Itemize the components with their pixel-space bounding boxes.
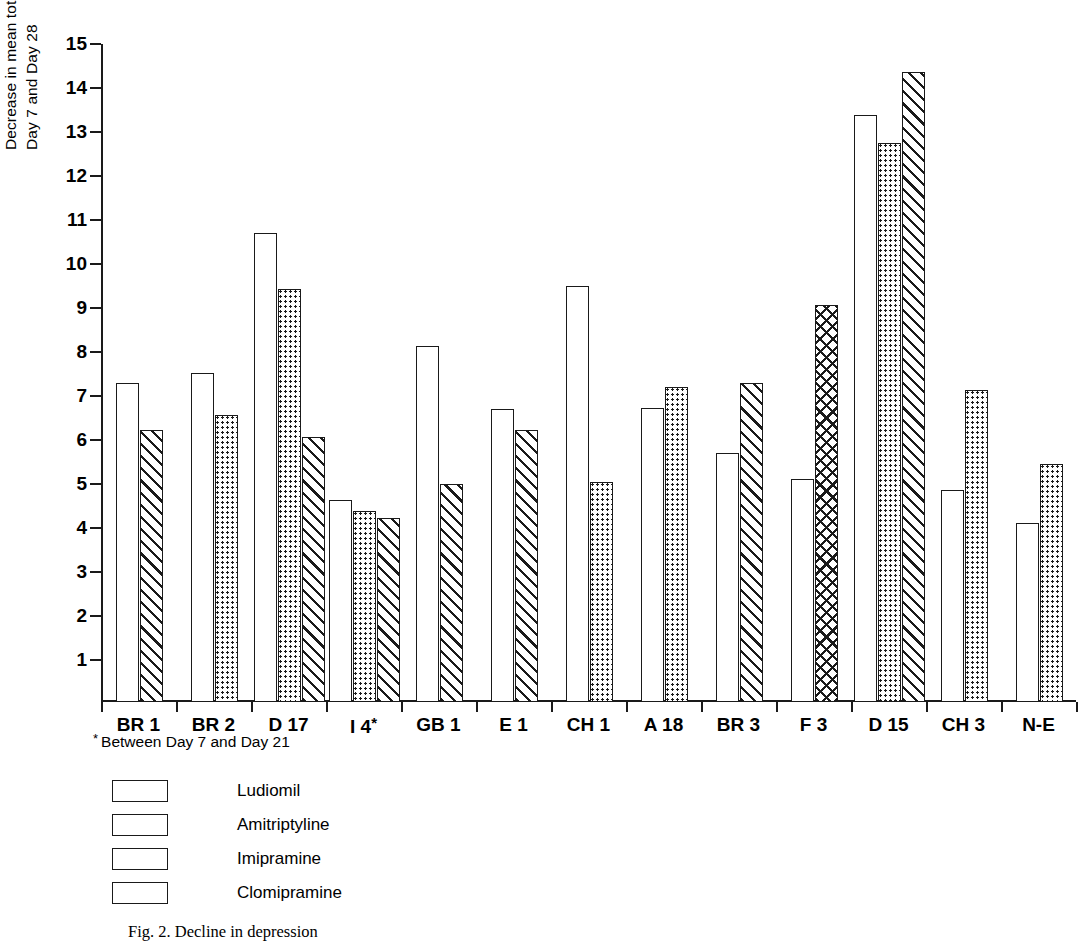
bar-ludiomil-i4 — [329, 500, 352, 702]
y-axis-tick-label: 9 — [47, 298, 87, 317]
bar-amitriptyline-i4 — [353, 511, 376, 702]
footnote-text: Between Day 7 and Day 21 — [101, 733, 290, 750]
figure-caption: Fig. 2. Decline in depression — [128, 922, 318, 942]
legend-swatch-ludiomil — [112, 780, 168, 802]
x-axis-category-label: CH 1 — [551, 714, 626, 736]
y-axis-tick — [90, 219, 101, 221]
x-axis-tick — [551, 702, 553, 712]
x-axis-category-label: BR 3 — [701, 714, 776, 736]
y-axis-tick-label: 5 — [47, 474, 87, 493]
y-axis-tick — [90, 571, 101, 573]
x-axis-tick — [1076, 702, 1078, 712]
bar-ludiomil-br3 — [716, 453, 739, 702]
bar-ludiomil-d15 — [854, 115, 877, 702]
bar-ludiomil-f3 — [791, 479, 814, 702]
bar-imipramine-br1 — [140, 430, 163, 702]
bar-imipramine-gb1 — [440, 484, 463, 702]
y-axis-tick — [90, 43, 101, 45]
y-axis-tick-label: 7 — [47, 386, 87, 405]
bar-amitriptyline-ne — [1040, 464, 1063, 702]
y-axis-tick-label: 15 — [47, 34, 87, 53]
y-axis-tick — [90, 87, 101, 89]
bar-ludiomil-gb1 — [416, 346, 439, 702]
bar-imipramine-i4 — [377, 518, 400, 702]
y-axis-tick — [90, 131, 101, 133]
y-axis-tick-label: 13 — [47, 122, 87, 141]
y-axis-tick-label: 8 — [47, 342, 87, 361]
y-axis-tick — [90, 263, 101, 265]
bar-ludiomil-ne — [1016, 523, 1039, 702]
bar-amitriptyline-d15 — [878, 143, 901, 702]
x-axis-tick — [101, 702, 103, 712]
legend-swatch-amitriptyline — [112, 814, 168, 836]
y-axis-tick-label: 1 — [47, 650, 87, 669]
x-axis-category-label: CH 3 — [926, 714, 1001, 736]
y-axis-tick-label: 10 — [47, 254, 87, 273]
y-axis-tick-label: 2 — [47, 606, 87, 625]
y-axis-tick — [90, 615, 101, 617]
bar-ludiomil-ch3 — [941, 490, 964, 702]
y-axis-tick — [90, 659, 101, 661]
x-axis-tick — [251, 702, 253, 712]
bar-amitriptyline-ch3 — [965, 390, 988, 702]
x-label-star-icon: * — [371, 714, 377, 731]
y-axis-tick-label: 12 — [47, 166, 87, 185]
y-axis-tick — [90, 483, 101, 485]
x-axis-tick — [851, 702, 853, 712]
y-axis-tick — [90, 395, 101, 397]
plot-area: BR 1BR 2D 17I 4*GB 1E 1CH 1A 18BR 3F 3D … — [101, 40, 1076, 702]
bar-amitriptyline-d17 — [278, 289, 301, 702]
bar-ludiomil-ch1 — [566, 286, 589, 702]
legend-label: Amitriptyline — [237, 814, 330, 836]
legend-swatch-clomipramine — [112, 882, 168, 904]
legend-label: Clomipramine — [237, 882, 342, 904]
x-axis-tick — [776, 702, 778, 712]
footnote-star-icon: * — [93, 731, 98, 746]
bar-imipramine-d17 — [302, 437, 325, 702]
bar-ludiomil-e1 — [491, 409, 514, 702]
bar-clomipramine-f3 — [815, 305, 838, 702]
x-axis-category-label: A 18 — [626, 714, 701, 736]
bar-amitriptyline-a18 — [665, 387, 688, 702]
x-axis-tick — [926, 702, 928, 712]
x-axis-tick — [701, 702, 703, 712]
x-axis-tick — [176, 702, 178, 712]
x-axis-category-label: N-E — [1001, 714, 1076, 736]
y-axis-tick-label: 3 — [47, 562, 87, 581]
bar-imipramine-e1 — [515, 430, 538, 702]
y-axis-tick-label: 4 — [47, 518, 87, 537]
y-axis-tick-label: 11 — [47, 210, 87, 229]
y-axis-tick — [90, 527, 101, 529]
bar-ludiomil-a18 — [641, 408, 664, 702]
x-axis-tick — [326, 702, 328, 712]
bar-amitriptyline-br2 — [215, 415, 238, 702]
legend-label: Ludiomil — [237, 780, 300, 802]
bar-amitriptyline-ch1 — [590, 482, 613, 702]
legend-label: Imipramine — [237, 848, 321, 870]
bar-imipramine-d15 — [902, 72, 925, 702]
y-axis-tick-label: 6 — [47, 430, 87, 449]
legend-swatch-imipramine — [112, 848, 168, 870]
y-axis-title-line-1: Decrease in mean total Hamilton scores (… — [0, 0, 21, 150]
y-axis-title-line-2: Day 7 and Day 28 — [21, 0, 42, 150]
x-axis-category-label: D 15 — [851, 714, 926, 736]
y-axis-line — [101, 44, 103, 702]
bar-ludiomil-br2 — [191, 373, 214, 702]
x-axis-category-label: F 3 — [776, 714, 851, 736]
y-axis-tick — [90, 351, 101, 353]
y-axis-tick — [90, 439, 101, 441]
y-axis-tick — [90, 175, 101, 177]
x-axis-tick — [476, 702, 478, 712]
y-axis-tick-label: 14 — [47, 78, 87, 97]
x-axis-category-label: GB 1 — [401, 714, 476, 736]
x-axis-tick — [401, 702, 403, 712]
bar-ludiomil-d17 — [254, 233, 277, 702]
x-axis-category-label: I 4* — [326, 714, 401, 738]
x-axis-tick — [1001, 702, 1003, 712]
footnote: *Between Day 7 and Day 21 — [93, 731, 290, 751]
x-axis-tick — [626, 702, 628, 712]
bar-imipramine-br3 — [740, 383, 763, 702]
y-axis-tick — [90, 307, 101, 309]
x-axis-category-label: E 1 — [476, 714, 551, 736]
